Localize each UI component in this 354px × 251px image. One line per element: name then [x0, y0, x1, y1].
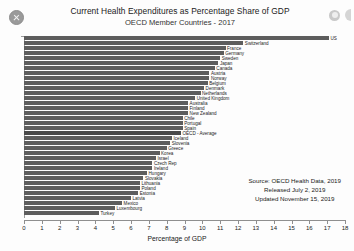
- bar: [24, 56, 220, 60]
- x-axis-tick: [345, 220, 346, 224]
- x-axis-tick-label: 8: [165, 225, 168, 231]
- table-row: Turkey: [24, 211, 345, 216]
- x-axis-tick-label: 12: [235, 225, 242, 231]
- bar: [24, 36, 329, 40]
- x-axis-tick: [24, 220, 25, 224]
- x-axis-tick-label: 6: [129, 225, 132, 231]
- x-axis-title: Percentage of GDP: [0, 235, 354, 242]
- source-note: Source: OECD Health Data, 2019 Released …: [248, 177, 341, 203]
- bar: [24, 141, 170, 145]
- bar: [24, 191, 138, 195]
- bar: [24, 71, 209, 75]
- bar: [24, 131, 181, 135]
- bar: [24, 211, 99, 215]
- x-axis-tick-label: 14: [270, 225, 277, 231]
- x-axis-tick-label: 3: [76, 225, 79, 231]
- bar: [24, 111, 188, 115]
- x-axis-tick: [78, 220, 79, 224]
- x-axis-tick-label: 2: [58, 225, 61, 231]
- bar: [24, 196, 131, 200]
- x-axis-tick: [256, 220, 257, 224]
- x-axis-tick: [113, 220, 114, 224]
- bar-category-label: Turkey: [99, 211, 114, 216]
- panel-edge-icon[interactable]: [345, 9, 351, 21]
- x-axis-tick: [202, 220, 203, 224]
- bar: [24, 186, 140, 190]
- bar: [24, 171, 147, 175]
- bar: [24, 86, 204, 90]
- bar: [24, 126, 183, 130]
- window-header: Current Health Expenditures as Percentag…: [0, 0, 354, 32]
- x-axis-tick-label: 0: [22, 225, 25, 231]
- x-axis-tick-label: 17: [324, 225, 331, 231]
- bar: [24, 136, 172, 140]
- x-axis-tick-label: 9: [183, 225, 186, 231]
- info-circle-icon[interactable]: [329, 10, 340, 21]
- source-line-2: Released July 2, 2019: [248, 186, 341, 195]
- header-icon-group: [329, 9, 351, 21]
- bar: [24, 61, 218, 65]
- x-axis-tick: [60, 220, 61, 224]
- x-axis-tick: [327, 220, 328, 224]
- x-axis-tick: [238, 220, 239, 224]
- bar: [24, 181, 140, 185]
- x-axis-tick-label: 1: [40, 225, 43, 231]
- bar: [24, 106, 188, 110]
- x-axis-tick-label: 16: [306, 225, 313, 231]
- bar: [24, 151, 160, 155]
- bar: [24, 176, 143, 180]
- x-axis-tick: [95, 220, 96, 224]
- bar: [24, 101, 188, 105]
- bar: [24, 51, 224, 55]
- bar: [24, 146, 167, 150]
- chart-plot: USSwitzerlandFranceGermanySwedenJapanCan…: [0, 32, 354, 251]
- bar: [24, 81, 208, 85]
- bar: [24, 96, 195, 100]
- x-axis-tick-label: 11: [217, 225, 223, 231]
- bar: [24, 46, 226, 50]
- x-axis-tick-label: 7: [147, 225, 150, 231]
- bar: [24, 156, 156, 160]
- x-axis-tick: [42, 220, 43, 224]
- bar: [24, 201, 122, 205]
- x-axis-tick: [185, 220, 186, 224]
- x-axis-tick: [292, 220, 293, 224]
- x-axis-tick: [149, 220, 150, 224]
- chart-window: Current Health Expenditures as Percentag…: [0, 0, 354, 251]
- x-axis-tick: [220, 220, 221, 224]
- bar: [24, 91, 201, 95]
- bar: [24, 41, 243, 45]
- bar: [24, 166, 152, 170]
- bar: [24, 66, 215, 70]
- bar: [24, 116, 183, 120]
- close-icon[interactable]: [9, 10, 24, 25]
- x-axis-tick-label: 4: [94, 225, 97, 231]
- chart-title-block: Current Health Expenditures as Percentag…: [55, 6, 305, 27]
- x-axis-tick-label: 18: [342, 225, 349, 231]
- x-axis-tick: [131, 220, 132, 224]
- x-axis-tick-label: 15: [288, 225, 295, 231]
- chart-subtitle: OECD Member Countries - 2017: [55, 18, 305, 27]
- source-line-3: Updated November 15, 2019: [248, 195, 341, 204]
- bar: [24, 76, 209, 80]
- x-axis-tick: [309, 220, 310, 224]
- bar: [24, 161, 152, 165]
- page-title: Current Health Expenditures as Percentag…: [55, 6, 305, 16]
- x-axis-tick-label: 10: [199, 225, 206, 231]
- x-axis-tick-label: 13: [252, 225, 259, 231]
- source-line-1: Source: OECD Health Data, 2019: [248, 177, 341, 186]
- x-axis-tick: [167, 220, 168, 224]
- x-axis-tick-label: 5: [111, 225, 114, 231]
- bar: [24, 121, 183, 125]
- x-axis-tick: [274, 220, 275, 224]
